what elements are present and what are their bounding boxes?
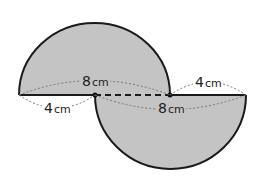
lower-diameter-unit: cm — [168, 103, 185, 116]
svg-text:4cm: 4cm — [195, 74, 222, 90]
svg-text:8cm: 8cm — [158, 100, 185, 116]
semicircles-diagram: 8cm 8cm 4cm 4cm — [0, 0, 261, 183]
right-offset-unit: cm — [205, 77, 222, 90]
upper-diameter-unit: cm — [92, 76, 109, 89]
svg-text:8cm: 8cm — [82, 73, 109, 89]
svg-text:4cm: 4cm — [44, 100, 71, 116]
left-offset-number: 4 — [44, 100, 53, 116]
right-offset-number: 4 — [195, 74, 204, 90]
lower-diameter-number: 8 — [158, 100, 167, 116]
upper-diameter-number: 8 — [82, 73, 91, 89]
left-offset-unit: cm — [54, 103, 71, 116]
